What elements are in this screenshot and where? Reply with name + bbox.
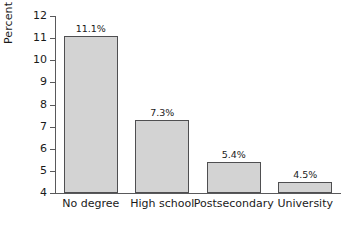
- bar-value-label: 4.5%: [275, 169, 335, 180]
- bar: [207, 162, 261, 193]
- y-tick-label: 8: [40, 99, 47, 110]
- y-axis-line: [55, 16, 56, 194]
- y-tick-label: 6: [40, 143, 47, 154]
- y-axis-title: Percent: [2, 0, 18, 78]
- y-tick-mark: [50, 149, 55, 150]
- bar-value-label: 7.3%: [132, 107, 192, 118]
- x-axis-category-label: University: [260, 197, 349, 210]
- y-tick-mark: [50, 16, 55, 17]
- y-tick-mark: [50, 127, 55, 128]
- bar: [135, 120, 189, 193]
- bar-value-label: 11.1%: [61, 23, 121, 34]
- y-tick-label: 12: [33, 10, 47, 21]
- x-axis-line: [55, 193, 341, 194]
- y-tick-mark: [50, 60, 55, 61]
- y-tick-mark: [50, 38, 55, 39]
- y-tick-mark: [50, 105, 55, 106]
- y-tick-label: 10: [33, 54, 47, 65]
- y-tick-label: 9: [40, 76, 47, 87]
- y-tick-label: 11: [33, 32, 47, 43]
- y-tick-mark: [50, 82, 55, 83]
- bar-chart: Percent 121110987654 11.1%7.3%5.4%4.5% N…: [0, 0, 349, 225]
- bar: [278, 182, 332, 193]
- y-tick-mark: [50, 193, 55, 194]
- y-tick-label: 7: [40, 121, 47, 132]
- bar-value-label: 5.4%: [204, 149, 264, 160]
- y-tick-label: 5: [40, 165, 47, 176]
- bar: [64, 36, 118, 193]
- y-tick-mark: [50, 171, 55, 172]
